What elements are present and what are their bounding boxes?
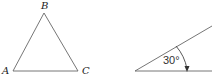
angle-diagram: 30° [135, 26, 212, 72]
angle-value-label: 30° [163, 54, 180, 66]
diagram-canvas: B A C 30° [0, 0, 212, 78]
vertex-label-a: A [1, 65, 9, 76]
vertex-label-c: C [82, 65, 90, 76]
vertex-label-b: B [40, 0, 48, 11]
triangle-abc: B A C [1, 0, 90, 76]
triangle-outline [13, 13, 78, 71]
